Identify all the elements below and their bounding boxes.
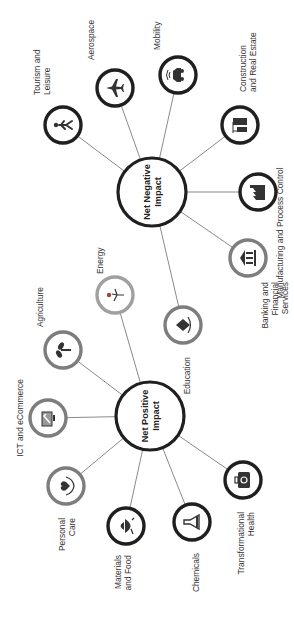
node-personal-care: PersonalCare	[48, 468, 84, 551]
node-label: Banking and	[260, 282, 270, 329]
node-label: Tourism and	[32, 49, 42, 95]
node-health: TransformationalHealth	[225, 462, 261, 575]
node-energy: Energy	[95, 247, 133, 313]
node-label: Agriculture	[35, 287, 45, 327]
node-aerospace: Aerospace	[86, 20, 133, 106]
node-label: Chemicals	[191, 553, 201, 592]
hub-label-line1: Net Positive	[140, 390, 150, 443]
node-label: Manufacturing and Process Control	[275, 167, 285, 298]
hub-label-line2: Impact	[151, 401, 161, 431]
node-materials: Materialsand Food	[108, 508, 144, 590]
node-label: Mobility	[152, 21, 162, 50]
node-ict: ICT and eCommerce	[15, 379, 66, 457]
hub-net-positive: Net Positive Impact	[116, 382, 184, 450]
node-manufacturing: Manufacturing and Process Control	[240, 167, 285, 298]
nodes: Tourism andLeisureAerospaceMobilityConst…	[15, 20, 290, 592]
node-label: and Food	[123, 555, 133, 591]
node-label: Construction	[238, 45, 248, 92]
node-label: Materials	[113, 555, 123, 589]
edges	[48, 75, 258, 526]
node-label: Transformational	[236, 512, 246, 575]
hub-label-line1: Net Negative	[142, 164, 152, 220]
node-chemicals: Chemicals	[174, 504, 210, 592]
node-label: and Real Estate	[248, 32, 258, 92]
node-construction: Constructionand Real Estate	[222, 32, 258, 143]
node-label: ICT and eCommerce	[15, 379, 25, 457]
node-ring	[174, 504, 210, 540]
node-label: Leisure	[42, 67, 52, 95]
node-label: Care	[67, 518, 77, 536]
node-tourism: Tourism andLeisure	[32, 49, 81, 143]
node-label: Personal	[57, 518, 67, 551]
node-label: Education	[182, 357, 192, 395]
hub-label-line2: Impact	[153, 177, 163, 207]
node-label: Energy	[95, 247, 105, 274]
node-agriculture: Agriculture	[35, 287, 81, 368]
impact-diagram: Tourism andLeisureAerospaceMobilityConst…	[0, 0, 294, 629]
node-label: Financial	[270, 282, 280, 316]
hub-net-negative: Net Negative Impact	[118, 158, 186, 226]
node-education: Education	[165, 307, 201, 394]
node-label: Aerospace	[86, 20, 96, 60]
node-mobility: Mobility	[152, 21, 196, 93]
node-label: Services	[280, 282, 290, 314]
node-label: Health	[246, 512, 256, 537]
